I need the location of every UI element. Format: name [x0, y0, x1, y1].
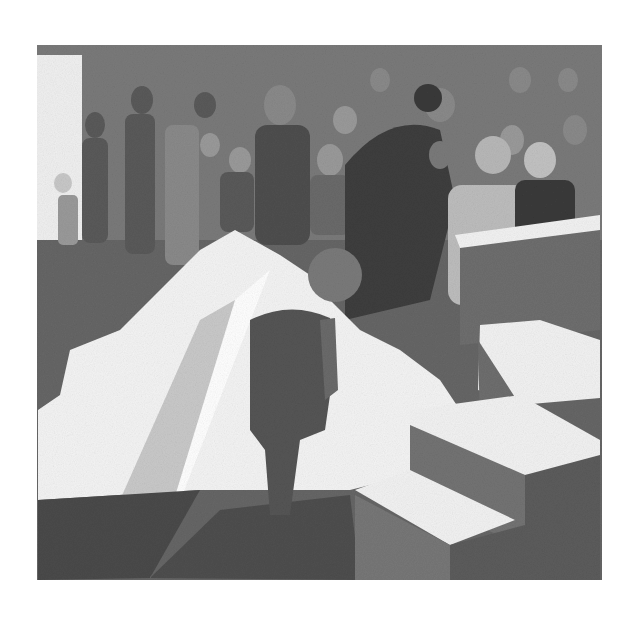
pencil-drawing	[0, 0, 635, 620]
illustration	[0, 0, 635, 620]
